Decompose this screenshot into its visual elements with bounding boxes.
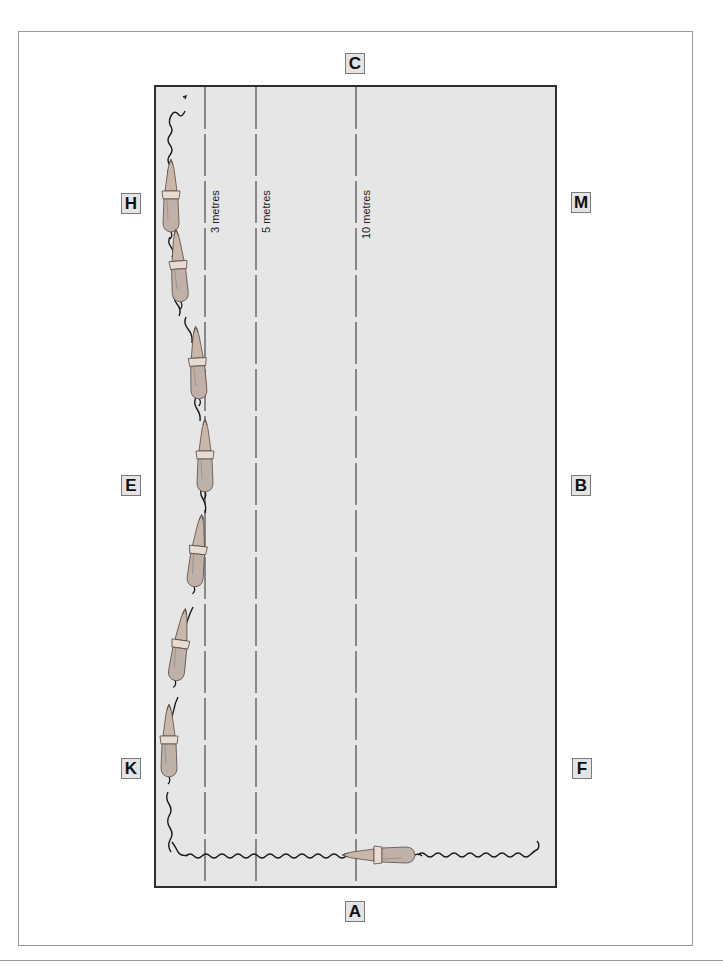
horse-3 bbox=[187, 326, 209, 407]
horse-4 bbox=[196, 419, 214, 499]
horse-path-overlay bbox=[156, 87, 555, 886]
horse-1 bbox=[162, 159, 180, 239]
horse-8-bottom bbox=[342, 846, 422, 864]
horse-5 bbox=[184, 513, 210, 594]
dressage-arena: 3 metres 5 metres 10 metres bbox=[154, 85, 557, 888]
page-bottom-rule bbox=[0, 960, 723, 961]
marker-m: M bbox=[571, 192, 591, 213]
horse-7 bbox=[160, 704, 178, 784]
marker-b: B bbox=[571, 475, 591, 496]
horse-6 bbox=[165, 607, 194, 689]
marker-f: F bbox=[572, 758, 592, 779]
marker-c: C bbox=[345, 53, 365, 74]
marker-k: K bbox=[121, 758, 141, 779]
marker-a: A bbox=[345, 901, 365, 922]
horse-2 bbox=[167, 228, 191, 309]
marker-h: H bbox=[121, 193, 141, 214]
marker-e: E bbox=[121, 475, 141, 496]
